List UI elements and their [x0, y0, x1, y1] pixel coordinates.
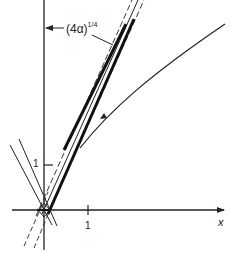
x-axis-label: x [218, 217, 224, 228]
annotation-exponent: 1/4 [88, 21, 98, 28]
x-tick-label: 1 [85, 221, 91, 231]
annotation-base: (4α) [66, 22, 88, 36]
annotation-label: (4α)1/4 [66, 21, 97, 35]
diagram-canvas [0, 0, 235, 263]
curve-arrow-icon [100, 113, 107, 119]
annotation-leader [92, 35, 113, 45]
bold-curve-right [48, 19, 134, 214]
trajectory-curve [80, 24, 225, 148]
asymptote-left-a [10, 145, 52, 225]
y-tick-label: 1 [33, 159, 39, 169]
